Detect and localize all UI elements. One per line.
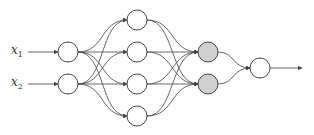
hidden1-node-2 xyxy=(127,42,147,62)
hidden2-node-1 xyxy=(198,42,218,62)
output-node xyxy=(250,58,270,78)
hidden1-node-4 xyxy=(127,106,147,126)
network-graph xyxy=(0,0,314,135)
input-node-2 xyxy=(58,74,78,94)
input-node-1 xyxy=(58,42,78,62)
nodes xyxy=(58,10,270,126)
hidden1-node-3 xyxy=(127,74,147,94)
hidden1-node-1 xyxy=(127,10,147,30)
neural-network-diagram: x1 x2 xyxy=(0,0,314,135)
hidden2-node-2 xyxy=(198,74,218,94)
